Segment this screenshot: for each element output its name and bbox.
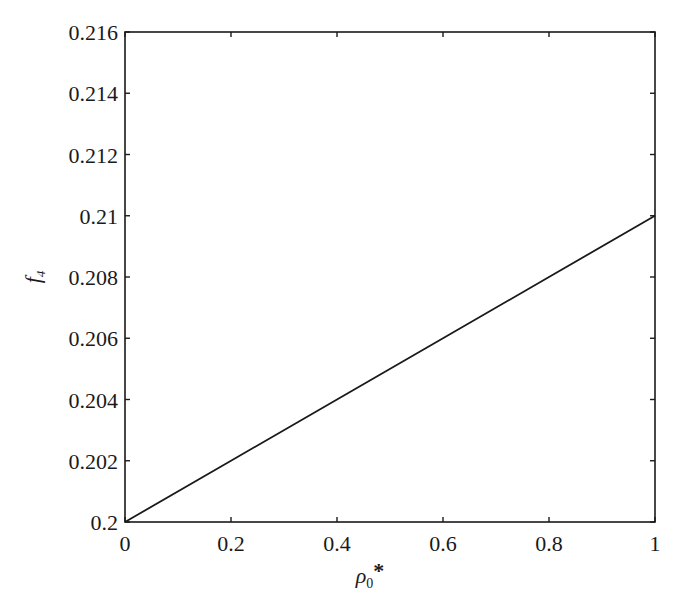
y-tick-label: 0.21	[80, 204, 119, 229]
plot-frame	[125, 32, 655, 522]
y-axis-label: f4	[20, 270, 48, 283]
series-line	[125, 216, 655, 522]
x-tick-label: 0.2	[217, 531, 245, 556]
line-chart: 00.20.40.60.81 0.20.2020.2040.2060.2080.…	[0, 0, 679, 601]
y-tick-label: 0.204	[69, 388, 119, 413]
y-tick-label: 0.202	[69, 449, 119, 474]
y-tick-label: 0.216	[69, 20, 119, 45]
x-tick-label: 0.8	[535, 531, 563, 556]
x-axis-label: ρ0*	[355, 558, 385, 591]
y-tick-label: 0.214	[69, 81, 119, 106]
x-tick-label: 0	[120, 531, 131, 556]
data-series	[125, 216, 655, 522]
y-tick-label: 0.208	[69, 265, 119, 290]
x-tick-label: 1	[650, 531, 661, 556]
x-tick-label: 0.4	[323, 531, 351, 556]
y-tick-label: 0.206	[69, 326, 119, 351]
axes-box	[125, 32, 655, 522]
x-tick-label: 0.6	[429, 531, 457, 556]
y-axis-ticks: 0.20.2020.2040.2060.2080.210.2120.2140.2…	[69, 20, 656, 535]
y-tick-label: 0.2	[91, 510, 119, 535]
y-tick-label: 0.212	[69, 143, 119, 168]
